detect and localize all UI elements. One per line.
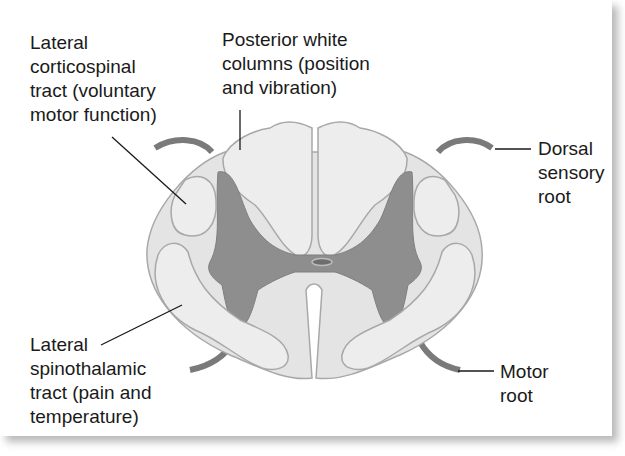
right-motor-root: [420, 342, 460, 370]
left-dorsal-root: [155, 140, 212, 152]
label-lateral-spinothalamic-tract: Lateral spinothalamic tract (pain and te…: [30, 333, 151, 429]
label-posterior-white-columns: Posterior white columns (position and vi…: [222, 28, 370, 100]
label-lateral-corticospinal-tract: Lateral corticospinal tract (voluntary m…: [30, 31, 157, 127]
right-dorsal-root: [438, 140, 492, 152]
leader-line-corticospinal: [112, 137, 186, 204]
label-dorsal-sensory-root: Dorsal sensory root: [538, 137, 605, 209]
central-canal: [312, 259, 332, 266]
label-motor-root: Motor root: [500, 360, 549, 408]
